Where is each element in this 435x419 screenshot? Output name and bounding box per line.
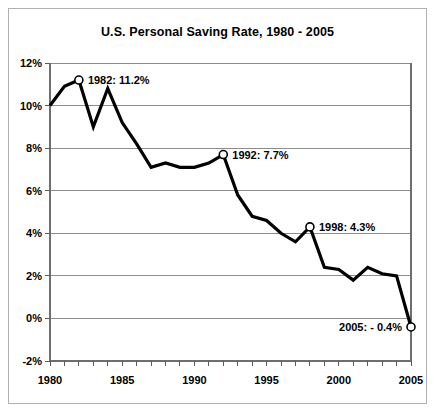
- y-axis-tick-label: 6%: [26, 185, 42, 197]
- data-point-annotation: 2005: - 0.4%: [339, 321, 402, 333]
- saving-rate-series: [50, 80, 411, 327]
- x-tick-marks-group: [50, 361, 411, 366]
- chart-container: U.S. Personal Saving Rate, 1980 - 2005 1…: [8, 8, 427, 404]
- y-axis-tick-label: 4%: [26, 227, 42, 239]
- y-axis-tick-label: 8%: [26, 142, 42, 154]
- axis-lines-group: [50, 63, 411, 361]
- y-axis-tick-label: 12%: [20, 57, 42, 69]
- x-axis-tick-label: 1985: [110, 374, 134, 386]
- y-axis-tick-label: 2%: [26, 270, 42, 282]
- data-point-marker: [407, 323, 415, 331]
- data-point-marker: [219, 151, 227, 159]
- x-axis-tick-label: 1980: [38, 374, 62, 386]
- y-axis-tick-label: -2%: [22, 355, 42, 367]
- gridlines-group: [50, 63, 411, 361]
- y-axis-tick-label: 10%: [20, 100, 42, 112]
- x-axis-tick-label: 1990: [182, 374, 206, 386]
- x-axis-tick-label: 2000: [327, 374, 351, 386]
- x-axis-tick-label: 2005: [399, 374, 423, 386]
- x-axis-tick-labels: 198019851990199520002005: [38, 374, 423, 386]
- y-axis-tick-labels: 12%10%8%6%4%2%0%-2%: [20, 57, 42, 367]
- data-point-marker: [306, 223, 314, 231]
- y-tick-marks-group: [45, 63, 50, 361]
- y-axis-tick-label: 0%: [26, 312, 42, 324]
- data-point-annotation: 1992: 7.7%: [232, 149, 288, 161]
- data-point-annotation: 1998: 4.3%: [319, 221, 375, 233]
- line-chart-plot: 12%10%8%6%4%2%0%-2% 19801985199019952000…: [9, 9, 427, 404]
- data-point-marker: [75, 76, 83, 84]
- saving-rate-line: [50, 80, 411, 327]
- x-axis-tick-label: 1995: [254, 374, 278, 386]
- data-point-annotation: 1982: 11.2%: [88, 74, 150, 86]
